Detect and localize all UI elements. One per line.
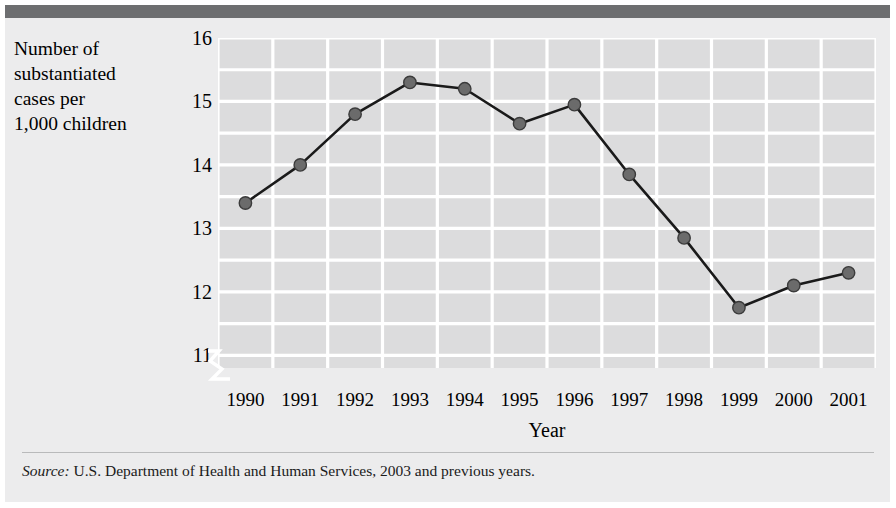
y-axis-tick-labels: 161514131211	[160, 0, 212, 508]
data-point-marker[interactable]	[459, 83, 471, 95]
data-point-marker[interactable]	[623, 168, 635, 180]
plot-region	[218, 38, 876, 368]
data-point-marker[interactable]	[733, 302, 745, 314]
x-axis-tick-labels: 1990199119921993199419951996199719981999…	[218, 389, 876, 415]
source-note: Source: U.S. Department of Health and Hu…	[22, 461, 872, 481]
data-point-marker[interactable]	[239, 197, 251, 209]
data-point-marker[interactable]	[349, 108, 361, 120]
data-point-marker[interactable]	[568, 98, 580, 110]
data-point-marker[interactable]	[788, 279, 800, 291]
data-point-marker[interactable]	[294, 159, 306, 171]
top-divider-rule	[5, 5, 890, 18]
x-axis-title: Year	[218, 419, 876, 442]
data-point-marker[interactable]	[678, 232, 690, 244]
figure-panel: Number of substantiated cases per 1,000 …	[0, 0, 896, 508]
y-tick-label: 16	[166, 28, 212, 48]
data-point-marker[interactable]	[513, 117, 525, 129]
y-tick-label: 14	[166, 155, 212, 175]
source-label: Source:	[22, 462, 70, 479]
data-point-marker[interactable]	[404, 76, 416, 88]
y-tick-label: 13	[166, 218, 212, 238]
source-divider	[22, 452, 874, 453]
x-tick-label: 2001	[817, 389, 881, 411]
data-point-marker[interactable]	[842, 267, 854, 279]
y-tick-label: 15	[166, 91, 212, 111]
source-body: U.S. Department of Health and Human Serv…	[70, 462, 535, 479]
y-tick-label: 12	[166, 282, 212, 302]
line-chart-svg	[218, 38, 876, 368]
page-edge-right	[890, 0, 896, 508]
page-edge-left	[0, 0, 5, 508]
y-axis-caption: Number of substantiated cases per 1,000 …	[14, 36, 174, 136]
y-axis-break-icon	[206, 349, 232, 383]
page-edge-bottom	[0, 502, 896, 508]
